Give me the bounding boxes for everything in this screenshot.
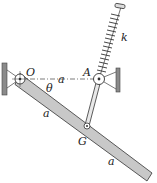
main-bar xyxy=(15,74,152,182)
label-A: A xyxy=(82,66,91,79)
linkage-diagram: O θ a A k a G a xyxy=(0,0,157,183)
label-G: G xyxy=(78,135,87,148)
right-wall xyxy=(116,68,120,92)
label-a-Gend: a xyxy=(108,155,115,168)
label-theta: θ xyxy=(46,82,53,95)
label-O: O xyxy=(26,66,35,79)
label-a-OG: a xyxy=(43,107,50,120)
label-k: k xyxy=(121,31,128,44)
link-AG xyxy=(85,79,101,126)
left-wall xyxy=(2,63,7,95)
label-a-OA: a xyxy=(58,73,65,86)
